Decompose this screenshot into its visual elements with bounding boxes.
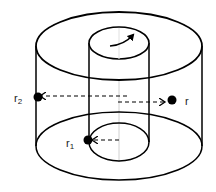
r1-point [84,136,93,145]
r2-point [34,93,43,102]
cylinder-drawing [0,0,216,192]
r-point [168,96,177,105]
diagram-canvas: r2 r r1 [0,0,216,192]
label-r1: r1 [66,138,74,151]
label-r1-sub: 1 [70,142,74,151]
label-r: r [185,96,189,107]
label-r-base: r [185,95,189,107]
label-r2-sub: 2 [18,97,22,106]
label-r2: r2 [14,93,22,106]
